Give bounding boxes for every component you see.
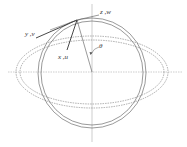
label-z-w: z ,w (99, 8, 111, 16)
label-theta: θ (99, 42, 103, 50)
tangent-line (50, 20, 77, 30)
diagram-canvas: z ,w y ,v x ,u θ (0, 0, 187, 147)
radius-line (77, 20, 92, 72)
x-u-axis-line (67, 20, 77, 50)
z-w-axis-line (77, 15, 99, 20)
label-y-v: y ,v (24, 30, 36, 38)
label-x-u: x ,u (57, 53, 69, 61)
